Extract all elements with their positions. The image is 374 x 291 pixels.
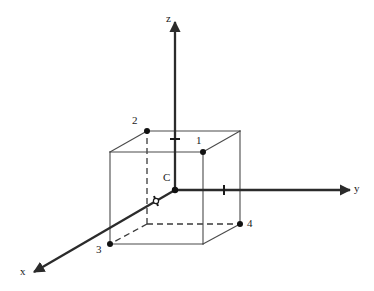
vertex-label-2: 2 (132, 115, 138, 126)
axis-label-y: y (354, 183, 360, 194)
vertex-label-4: 4 (247, 218, 253, 229)
vertex-marker-4 (237, 221, 243, 227)
cube-edge (203, 224, 240, 244)
cube-edge (110, 131, 147, 152)
cube-edge (203, 131, 240, 152)
tick-marker-x-circle (153, 198, 158, 203)
coordinate-cube-diagram: z y x C 1 2 3 4 (0, 0, 374, 291)
origin-label-c: C (163, 172, 170, 183)
diagram-canvas (0, 0, 374, 291)
origin-marker (172, 187, 178, 193)
vertex-label-1: 1 (196, 135, 202, 146)
axis-label-z: z (166, 13, 171, 24)
vertex-marker-1 (200, 149, 206, 155)
vertex-marker-2 (144, 128, 150, 134)
axis-lines (34, 22, 350, 272)
vertex-marker-3 (107, 241, 113, 247)
axis-label-x: x (20, 266, 26, 277)
cube-edge-dashed (110, 224, 147, 244)
vertex-label-3: 3 (96, 244, 102, 255)
